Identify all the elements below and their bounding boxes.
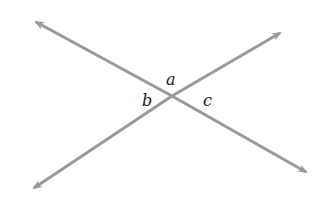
line-2 — [172, 33, 280, 96]
angle-label-a: a — [166, 72, 176, 88]
angle-label-c: c — [203, 93, 212, 109]
line-1 — [172, 96, 306, 172]
angle-label-b: b — [142, 93, 152, 109]
intersecting-lines-diagram — [0, 0, 327, 203]
line-1 — [36, 22, 172, 96]
